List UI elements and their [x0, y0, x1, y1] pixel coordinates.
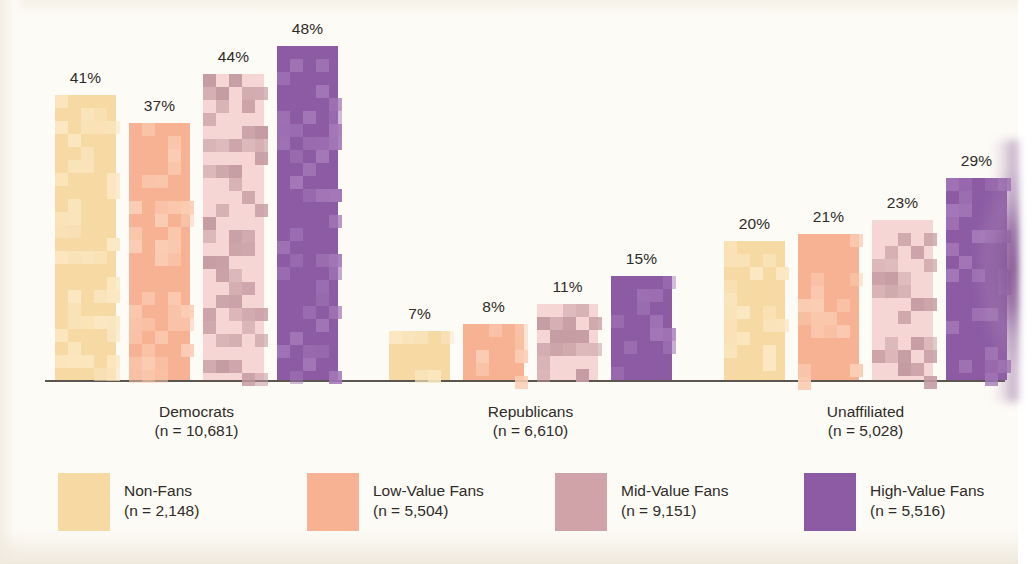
group-axis-label-name: Republicans [488, 403, 573, 420]
bar-value-label: 20% [724, 215, 785, 233]
legend-label-count: (n = 9,151) [621, 501, 728, 521]
bar-value-label: 37% [129, 97, 190, 115]
bar-texture [203, 74, 264, 380]
chart-legend: Non-Fans(n = 2,148)Low-Value Fans(n = 5,… [0, 468, 1018, 548]
legend-swatch [555, 473, 607, 531]
bar-texture [463, 324, 524, 380]
legend-swatch [804, 473, 856, 531]
group-axis-label-count: (n = 5,028) [684, 421, 1032, 440]
bar-value-label: 8% [463, 298, 524, 316]
bar [724, 241, 785, 380]
group-axis-label-name: Democrats [159, 403, 234, 420]
legend-label-count: (n = 5,516) [870, 501, 984, 521]
legend-label-name: Mid-Value Fans [621, 482, 728, 499]
bar-value-label: 29% [946, 152, 1007, 170]
bar-value-label: 44% [203, 48, 264, 66]
bar-texture [55, 95, 116, 380]
legend-label-name: Low-Value Fans [373, 482, 484, 499]
bar [798, 234, 859, 380]
group-axis-label-count: (n = 6,610) [349, 421, 712, 440]
bar-value-label: 21% [798, 208, 859, 226]
bar-texture [389, 331, 450, 380]
bar-texture [798, 234, 859, 380]
group-axis-label: Republicans(n = 6,610) [349, 402, 712, 440]
legend-label-name: High-Value Fans [870, 482, 984, 499]
bar-value-label: 23% [872, 194, 933, 212]
plot-area: 41%37%44%48%Democrats(n = 10,681)7%8%11%… [0, 0, 1018, 400]
bar-texture [277, 46, 338, 380]
bar [203, 74, 264, 380]
bar-texture [946, 178, 1007, 380]
bar [611, 276, 672, 380]
legend-label: Low-Value Fans(n = 5,504) [373, 473, 484, 521]
legend-label: High-Value Fans(n = 5,516) [870, 473, 984, 521]
group-axis-label: Unaffiliated(n = 5,028) [684, 402, 1032, 440]
group-axis-label: Democrats(n = 10,681) [15, 402, 378, 440]
legend-label-name: Non-Fans [124, 482, 192, 499]
legend-swatch [58, 473, 110, 531]
bar [946, 178, 1007, 380]
bar-value-label: 7% [389, 305, 450, 323]
bar [55, 95, 116, 380]
bar [129, 123, 190, 380]
bar [277, 46, 338, 380]
bar [389, 331, 450, 380]
bar-value-label: 15% [611, 250, 672, 268]
bar-value-label: 41% [55, 69, 116, 87]
legend-item[interactable]: Low-Value Fans(n = 5,504) [307, 473, 484, 531]
legend-label-count: (n = 2,148) [124, 501, 199, 521]
legend-label-count: (n = 5,504) [373, 501, 484, 521]
bar-value-label: 11% [537, 278, 598, 296]
legend-item[interactable]: Non-Fans(n = 2,148) [58, 473, 199, 531]
bar [872, 220, 933, 380]
legend-item[interactable]: Mid-Value Fans(n = 9,151) [555, 473, 728, 531]
group-axis-label-count: (n = 10,681) [15, 421, 378, 440]
bar-texture [724, 241, 785, 380]
bar [463, 324, 524, 380]
legend-label: Mid-Value Fans(n = 9,151) [621, 473, 728, 521]
legend-label: Non-Fans(n = 2,148) [124, 473, 199, 521]
bar-texture [611, 276, 672, 380]
legend-item[interactable]: High-Value Fans(n = 5,516) [804, 473, 984, 531]
group-axis-label-name: Unaffiliated [827, 403, 904, 420]
bar-texture [129, 123, 190, 380]
bar-texture [872, 220, 933, 380]
bar-texture [537, 304, 598, 380]
legend-swatch [307, 473, 359, 531]
bar-value-label: 48% [277, 20, 338, 38]
bar [537, 304, 598, 380]
